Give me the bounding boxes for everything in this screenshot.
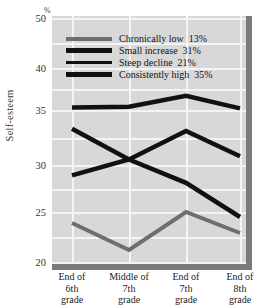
y-axis-tick-30: 30 (22, 160, 46, 171)
y-axis-tick-40: 40 (22, 63, 46, 74)
x-axis-tick-2: Middle of7thgrade (97, 271, 161, 306)
chart-legend: Chronically low13%Small increase31%Steep… (66, 33, 213, 81)
x-axis-tick-line: Middle of (97, 271, 161, 283)
x-axis-tick-line: 7th (97, 283, 161, 295)
x-axis-tick-line: 6th (40, 283, 104, 295)
legend-share-value: 13% (189, 33, 207, 44)
series-line-consistently-high (72, 96, 240, 109)
x-axis-tick-labels: End of6thgradeMiddle of7thgradeEnd of7th… (52, 271, 248, 308)
y-axis-tick-20: 20 (22, 257, 46, 268)
legend-swatch-icon (66, 48, 112, 53)
self-esteem-line-chart: Self-esteem % 504035302520 Chronically l… (0, 0, 263, 308)
y-axis-title: Self-esteem (4, 81, 15, 151)
legend-label: Small increase31% (119, 45, 201, 56)
y-axis-tick-35: 35 (22, 105, 46, 116)
x-axis-tick-line: 8th (208, 283, 263, 295)
legend-item-steep-decline[interactable]: Steep decline21% (66, 57, 213, 68)
x-axis-tick-line: End of (40, 271, 104, 283)
legend-share-value: 35% (194, 69, 212, 80)
right-axis-bar (246, 16, 252, 270)
x-axis-tick-4: End of8thgrade (208, 271, 263, 306)
legend-label: Consistently high35% (119, 69, 213, 80)
x-axis-tick-line: grade (97, 294, 161, 306)
x-axis-tick-line: End of (208, 271, 263, 283)
legend-item-chronically-low[interactable]: Chronically low13% (66, 33, 213, 44)
x-axis-tick-1: End of6thgrade (40, 271, 104, 306)
legend-label: Steep decline21% (119, 57, 196, 68)
legend-item-small-increase[interactable]: Small increase31% (66, 45, 213, 56)
x-axis-bar (52, 264, 252, 270)
legend-label: Chronically low13% (119, 33, 207, 44)
legend-swatch-icon (66, 61, 112, 64)
y-axis-tick-50: 50 (22, 13, 46, 24)
series-line-chronically-low (72, 212, 240, 250)
legend-item-consistently-high[interactable]: Consistently high35% (66, 69, 213, 80)
x-axis-tick-line: grade (40, 294, 104, 306)
legend-share-value: 21% (178, 57, 196, 68)
y-axis-tick-25: 25 (22, 207, 46, 218)
y-axis-tick-labels: 504035302520 (20, 0, 46, 308)
legend-share-value: 31% (183, 45, 201, 56)
legend-swatch-icon (66, 72, 112, 77)
legend-swatch-icon (66, 37, 112, 41)
x-axis-tick-line: grade (208, 294, 263, 306)
